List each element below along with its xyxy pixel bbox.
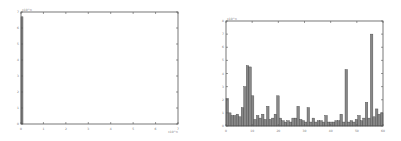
x-exponent-label: x10^n	[168, 130, 178, 134]
histogram-bar	[310, 122, 313, 126]
histogram-bar	[284, 122, 287, 126]
histogram-bar	[229, 113, 232, 126]
histogram-bar	[307, 108, 310, 126]
y-tick-label: 7	[17, 10, 19, 14]
y-tick-label: 0	[222, 124, 224, 128]
y-tick-label: 3	[17, 74, 19, 78]
histogram-bar	[363, 118, 366, 126]
x-tick-label: 2	[65, 127, 67, 131]
histogram-bar	[234, 116, 237, 127]
histogram-bar	[335, 121, 338, 126]
y-tick-label: 7	[222, 32, 224, 36]
histogram-bar	[325, 116, 328, 127]
histogram-bar	[330, 122, 333, 126]
histogram-bar	[269, 119, 272, 126]
x-tick-label: 30	[303, 129, 307, 133]
histogram-bar	[302, 121, 305, 126]
y-tick-label: 8	[222, 19, 224, 23]
histogram-bar	[375, 109, 378, 126]
histogram-bar	[317, 121, 320, 126]
histogram-bar	[365, 102, 368, 126]
x-tick-label: 10	[250, 129, 254, 133]
histogram-bar	[360, 121, 363, 126]
x-tick-label: 5	[132, 127, 134, 131]
histogram-bar	[279, 118, 282, 126]
histogram-bar	[274, 114, 277, 126]
x-tick-label: 0	[20, 127, 22, 131]
plot-frame	[21, 12, 178, 124]
histogram-bar	[254, 119, 257, 126]
histogram-bar	[287, 121, 290, 126]
y-tick-label: 4	[222, 72, 224, 76]
histogram-bar	[332, 122, 335, 126]
histogram-bar	[256, 116, 259, 127]
histogram-bar	[342, 122, 345, 126]
histogram-bar	[350, 121, 353, 126]
y-tick-label: 6	[222, 45, 224, 49]
histogram-bar	[345, 70, 348, 126]
left-histogram: 0123456701234567x10^nx10^n	[0, 0, 200, 141]
histogram-bar	[340, 114, 343, 126]
histogram-bar	[267, 106, 270, 126]
histogram-bar	[251, 96, 254, 126]
histogram-bar	[312, 118, 315, 126]
histogram-bar	[264, 119, 267, 126]
right-histogram: 0102030405060012345678x10^n	[200, 0, 401, 141]
y-exponent-label: x10^n	[227, 17, 237, 21]
histogram-bar	[297, 106, 300, 126]
histogram-bar	[299, 119, 302, 126]
histogram-bar	[249, 67, 252, 126]
y-tick-label: 5	[222, 58, 224, 62]
histogram-bar	[370, 34, 373, 126]
histogram-bar	[327, 122, 330, 126]
histogram-bar	[239, 117, 242, 126]
x-tick-label: 0	[225, 129, 227, 133]
histogram-bar	[272, 118, 275, 126]
histogram-bar	[305, 122, 308, 126]
histogram-bar	[337, 121, 340, 126]
histogram-bar	[348, 122, 351, 126]
histogram-bar	[373, 117, 376, 126]
histogram-bar	[246, 66, 249, 126]
x-tick-label: 6	[155, 127, 157, 131]
y-tick-label: 6	[17, 26, 19, 30]
histogram-bar	[353, 122, 356, 126]
histogram-bar	[282, 121, 285, 126]
histogram-bar	[292, 118, 295, 126]
histogram-bar	[241, 108, 244, 126]
x-tick-label: 40	[329, 129, 333, 133]
histogram-bar	[358, 116, 361, 127]
x-tick-label: 3	[87, 127, 89, 131]
x-tick-label: 4	[110, 127, 112, 131]
histogram-bar	[244, 87, 247, 126]
histogram-bar	[261, 114, 264, 126]
y-tick-label: 0	[17, 122, 19, 126]
histogram-bar	[320, 121, 323, 126]
x-tick-label: 60	[381, 129, 385, 133]
x-tick-label: 1	[42, 127, 44, 131]
y-tick-label: 1	[222, 111, 224, 115]
y-exponent-label: x10^n	[22, 8, 32, 12]
histogram-bar	[277, 96, 280, 126]
histogram-bar	[236, 114, 239, 126]
histogram-bar	[289, 122, 292, 126]
y-tick-label: 2	[17, 90, 19, 94]
histogram-bar	[315, 122, 318, 126]
y-tick-label: 5	[17, 42, 19, 46]
histogram-bar	[378, 114, 381, 126]
histogram-bar	[322, 122, 325, 126]
histogram-bar	[294, 118, 297, 126]
y-tick-label: 2	[222, 98, 224, 102]
left-chart-svg: 0123456701234567x10^nx10^n	[0, 0, 200, 141]
y-tick-label: 4	[17, 58, 19, 62]
histogram-bar	[259, 118, 262, 126]
histogram-bar	[355, 119, 358, 126]
histogram-bar	[231, 116, 234, 127]
x-tick-label: 20	[276, 129, 280, 133]
y-tick-label: 3	[222, 85, 224, 89]
y-tick-label: 1	[17, 106, 19, 110]
x-tick-label: 50	[355, 129, 359, 133]
right-chart-svg: 0102030405060012345678x10^n	[200, 0, 401, 141]
histogram-bar	[368, 118, 371, 126]
